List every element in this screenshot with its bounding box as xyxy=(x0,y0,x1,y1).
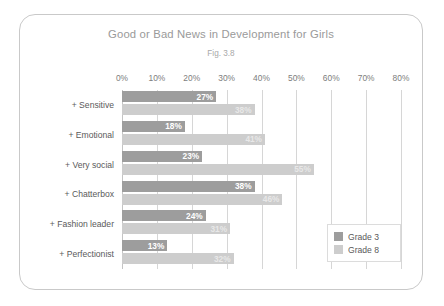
x-tick-label: 70% xyxy=(358,73,375,83)
x-tick-label: 0% xyxy=(116,73,128,83)
bar-grade-3: 27% xyxy=(122,91,216,102)
gridline-80pct xyxy=(401,90,402,269)
bar-grade-8: 32% xyxy=(122,253,234,264)
bar-value-label: 18% xyxy=(165,121,185,131)
bar-value-label: 41% xyxy=(245,134,265,144)
bar-grade-8: 31% xyxy=(122,223,230,234)
bar-grade-3: 38% xyxy=(122,181,255,192)
x-tick-label: 10% xyxy=(148,73,165,83)
bar-value-label: 55% xyxy=(294,164,314,174)
bar-grade-8: 46% xyxy=(122,194,282,205)
figure-frame: Good or Bad News in Development for Girl… xyxy=(19,14,423,290)
legend-item: Grade 3 xyxy=(334,230,394,243)
chart-figure-number: Fig. 3.8 xyxy=(20,49,422,58)
bar-grade-3: 13% xyxy=(122,240,167,251)
x-tick-label: 80% xyxy=(393,73,410,83)
bar-grade-8: 38% xyxy=(122,104,255,115)
legend-label: Grade 3 xyxy=(348,232,379,242)
x-tick-label: 30% xyxy=(218,73,235,83)
category-row: + Sensitive27%38% xyxy=(122,90,401,120)
bar-value-label: 32% xyxy=(214,254,234,264)
bar-grade-8: 55% xyxy=(122,164,314,175)
category-label: + Fashion leader xyxy=(50,219,114,229)
category-label: + Chatterbox xyxy=(65,189,114,199)
bar-grade-3: 23% xyxy=(122,151,202,162)
legend-label: Grade 8 xyxy=(348,245,379,255)
bar-grade-3: 24% xyxy=(122,210,206,221)
x-tick-label: 60% xyxy=(323,73,340,83)
category-label: + Emotional xyxy=(68,130,114,140)
legend: Grade 3Grade 8 xyxy=(327,224,401,262)
bar-grade-8: 41% xyxy=(122,134,265,145)
category-label: + Sensitive xyxy=(72,100,114,110)
category-row: + Chatterbox38%46% xyxy=(122,180,401,210)
bar-value-label: 27% xyxy=(197,92,217,102)
bar-value-label: 24% xyxy=(186,211,206,221)
x-tick-label: 50% xyxy=(288,73,305,83)
category-label: + Very social xyxy=(65,160,114,170)
x-tick-label: 20% xyxy=(183,73,200,83)
category-row: + Emotional18%41% xyxy=(122,120,401,150)
bar-value-label: 31% xyxy=(211,224,231,234)
bar-value-label: 23% xyxy=(183,151,203,161)
category-row: + Very social23%55% xyxy=(122,150,401,180)
bar-grade-3: 18% xyxy=(122,121,185,132)
legend-swatch xyxy=(334,232,343,241)
legend-swatch xyxy=(334,245,343,254)
bar-value-label: 46% xyxy=(263,194,283,204)
bar-value-label: 38% xyxy=(235,105,255,115)
category-label: + Perfectionist xyxy=(59,249,114,259)
bar-value-label: 38% xyxy=(235,181,255,191)
x-tick-label: 40% xyxy=(253,73,270,83)
bar-value-label: 13% xyxy=(148,241,168,251)
chart-title: Good or Bad News in Development for Girl… xyxy=(20,28,422,40)
legend-item: Grade 8 xyxy=(334,243,394,256)
